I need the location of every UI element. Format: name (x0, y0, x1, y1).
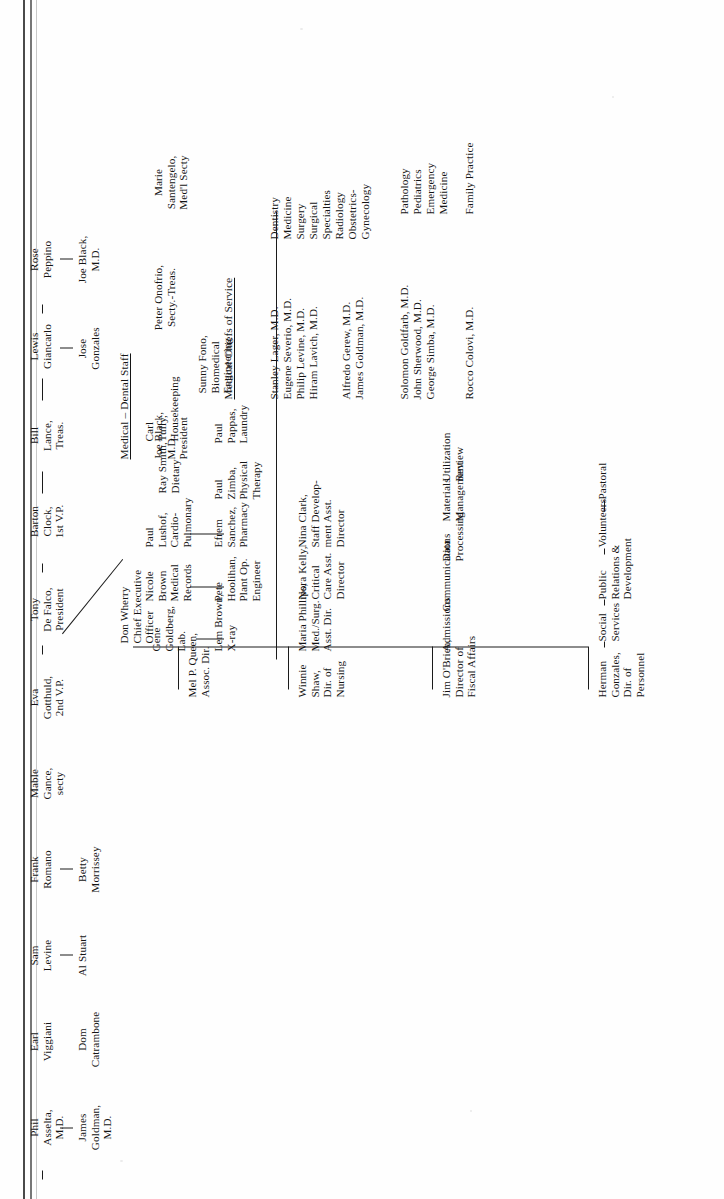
connector-dash (42, 304, 43, 313)
chief-name: Eugene Severio, M.D. (281, 249, 294, 399)
board-member-peppino: Rose Peppino (28, 217, 53, 301)
connector-vertical (60, 258, 73, 259)
board-member-clock: Barton Clock, 1st V.P. (28, 479, 66, 563)
chief-name: James Goldman, M.D. (353, 229, 366, 399)
branch-nursing (288, 646, 289, 689)
board-member-romano: Frank Romano (28, 827, 53, 911)
board-member-gonzales-jose: Jose Gonzales (76, 305, 101, 391)
biomedical-engineering: Sunny Fono, Biomedical Engineering (196, 263, 234, 393)
board-member-lance: Bill Lance, Treas. (28, 393, 66, 477)
board-member-catrambone: Dom Catrambone (76, 995, 101, 1083)
chief-name: Philip Levine, M.D. (294, 249, 307, 399)
connector-dash (604, 599, 605, 605)
connector-vertical (60, 1127, 73, 1128)
chief-service: Surgery (294, 109, 307, 239)
chief-service: Emergency Medicine (424, 84, 449, 214)
chief-service: Obstetrics- Gynecology (346, 109, 371, 239)
chief-service: Surgical Specialties (307, 109, 332, 239)
chief-name: George Simba, M.D. (424, 219, 437, 399)
chief-name: Solomon Goldfarb, M.D. (398, 219, 411, 399)
connector-dash (42, 1170, 43, 1179)
organizational-chart: Phil Asselta, M.D. Earl Viggiani Sam Lev… (0, 0, 724, 1199)
board-member-black-joe: Joe Black, M.D. (76, 217, 101, 301)
ancillary-divider (276, 211, 277, 659)
board-member-defalco: Tony De Falco, President (28, 565, 66, 653)
connector-dash (42, 378, 43, 400)
connector-vertical (60, 954, 73, 955)
board-member-stuart: Al Stuart (76, 913, 89, 997)
department-utilization-review: Utilization Review (440, 361, 465, 481)
connector-dash (604, 641, 605, 647)
chief-name: John Sherwood, M.D. (411, 219, 424, 399)
board-member-viggiani: Earl Viggiani (28, 999, 53, 1083)
chief-service: Dentistry (268, 109, 281, 239)
nursing-staff-dev: Nina Clark, Staff Develop- ment Asst. Di… (296, 412, 346, 547)
chief-name: Hiram Lavich, M.D. (307, 249, 320, 399)
connector-vertical (196, 638, 224, 639)
chief-service: Pathology (398, 84, 411, 214)
medical-dental-staff-heading: Medical – Dental Staff (118, 289, 131, 459)
chief-service: Medicine (281, 109, 294, 239)
connector-dash (42, 645, 43, 654)
connector-vertical (190, 533, 224, 534)
scanned-page: Phil Asselta, M.D. Earl Viggiani Sam Lev… (0, 0, 724, 1199)
ancillary-housekeeping: Carl Tully, Housekeeping (143, 311, 181, 441)
connector-vertical (190, 586, 224, 587)
connector-diagonal-president-to-ceo (62, 558, 123, 633)
connector-dash (42, 471, 43, 493)
board-member-levine: Sam Levine (28, 913, 53, 997)
branch-fiscal (432, 646, 433, 689)
connector-dash (604, 548, 605, 554)
chief-name: Stanley Lager, M.D. (268, 249, 281, 399)
board-member-gance: Mable Gance, secty (28, 741, 66, 825)
connector-dash (42, 563, 43, 572)
branch-assoc-dir (178, 646, 179, 689)
branch-personnel (588, 646, 589, 689)
board-member-goldman: James Goldman, M.D. (76, 1085, 114, 1169)
chief-service: Pediatrics (411, 84, 424, 214)
medical-staff-medical-secretary: Marie Santengelo, Med'l Secty (152, 127, 190, 237)
connector-vertical (60, 347, 73, 348)
connector-vertical (60, 868, 73, 869)
chief-name: Alfredo Gerew, M.D. (340, 239, 353, 399)
department-pastoral: Pastoral (596, 389, 609, 499)
connector-dash (604, 500, 605, 511)
board-member-giancarlo: Lewis Giancarlo (28, 301, 53, 391)
board-member-gotthuld: Eva Gotthuld, 2nd V.P. (28, 655, 66, 739)
board-member-morrissey: Betty Morrissey (76, 827, 101, 911)
chief-service: Family Practice (463, 64, 476, 214)
chief-service: Radiology (333, 109, 346, 239)
